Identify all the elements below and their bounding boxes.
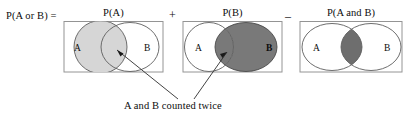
panel-p-a-and-b: A B [300, 22, 402, 73]
panel-p-a: A B [64, 21, 163, 74]
panel-p-a-circle-b-label: B [144, 43, 150, 53]
annotation-label: A and B counted twice [124, 101, 222, 112]
panel-p-b-circle-a-label: A [195, 43, 202, 53]
panel-p-a-and-b-circle-a-label: A [313, 43, 320, 53]
panel-p-b-circle-b-label: B [266, 43, 273, 53]
venn-diagram-figure: P(A or B) = P(A) P(B) P(A and B) + – [0, 0, 412, 117]
panel-p-b: A B [183, 22, 282, 73]
panel-p-a-and-b-circle-b-label: B [384, 43, 390, 53]
panel-p-a-circle-a-label: A [74, 43, 81, 53]
